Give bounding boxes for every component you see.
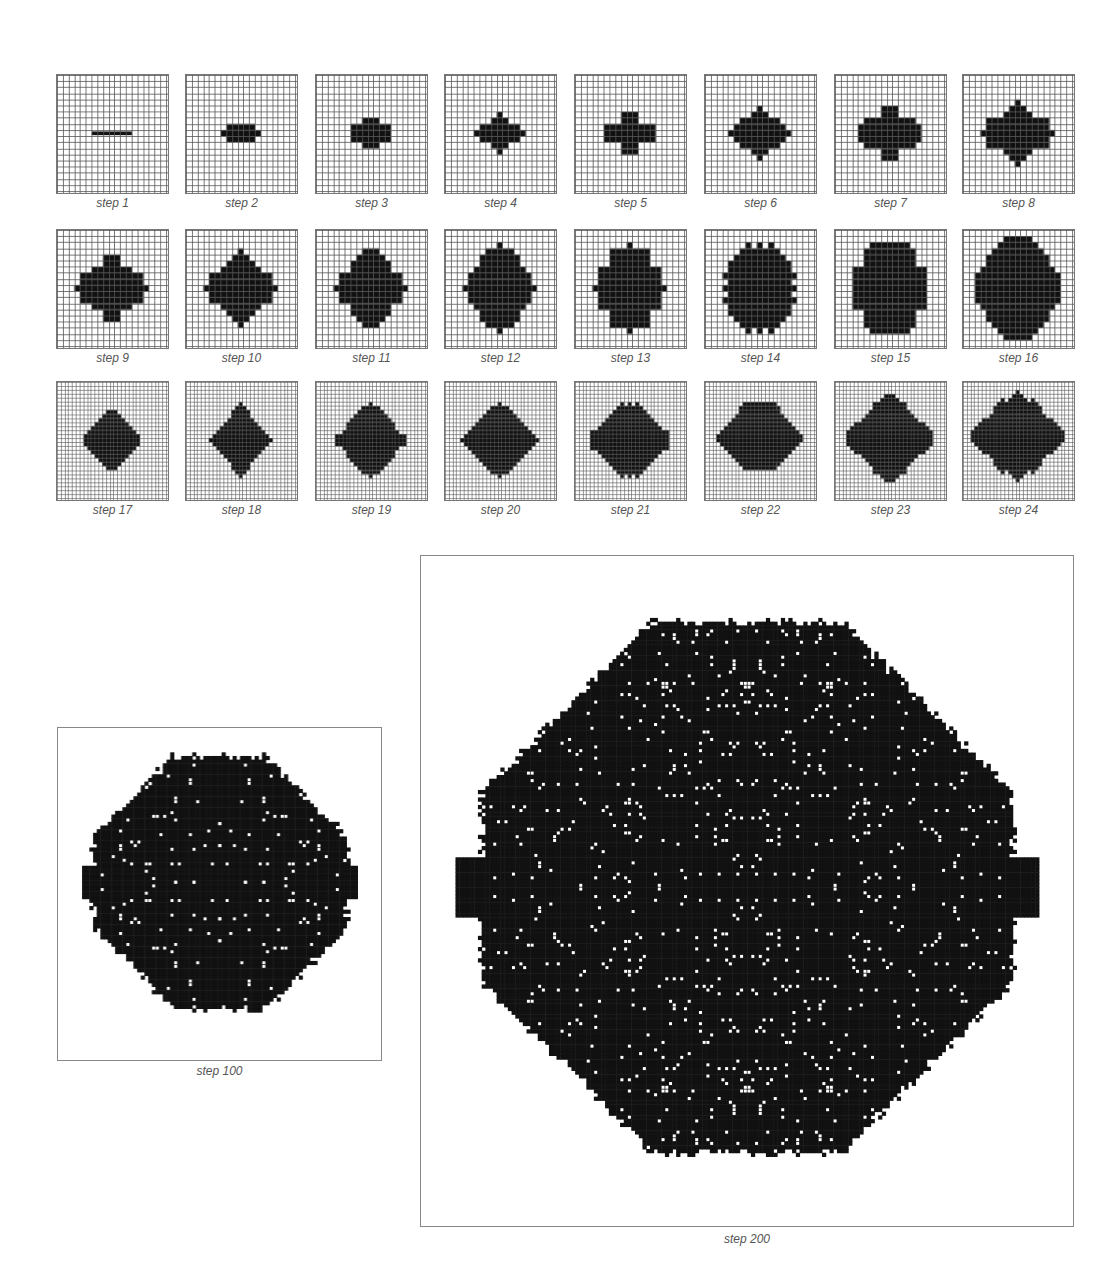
step-11-caption: step 11 <box>315 351 428 365</box>
step-200-pattern <box>448 588 1046 1186</box>
step-12-caption: step 12 <box>444 351 557 365</box>
step-3-grid <box>315 74 428 194</box>
step-1-caption: step 1 <box>56 196 169 210</box>
step-6-grid <box>704 74 817 194</box>
step-6-caption: step 6 <box>704 196 817 210</box>
step-15-caption: step 15 <box>834 351 947 365</box>
step-23-caption: step 23 <box>834 503 947 517</box>
step-19-grid <box>315 381 428 501</box>
step-14-grid <box>704 229 817 349</box>
step-9-caption: step 9 <box>56 351 169 365</box>
step-22-caption: step 22 <box>704 503 817 517</box>
step-100-caption: step 100 <box>57 1064 382 1078</box>
step-21-grid <box>574 381 687 501</box>
step-19-caption: step 19 <box>315 503 428 517</box>
step-9-grid <box>56 229 169 349</box>
step-16-grid <box>962 229 1075 349</box>
step-4-caption: step 4 <box>444 196 557 210</box>
step-24-caption: step 24 <box>962 503 1075 517</box>
step-15-grid <box>834 229 947 349</box>
step-23-grid <box>834 381 947 501</box>
step-17-grid <box>56 381 169 501</box>
step-22-grid <box>704 381 817 501</box>
step-1-grid <box>56 74 169 194</box>
step-11-grid <box>315 229 428 349</box>
step-200-caption: step 200 <box>420 1232 1074 1246</box>
step-18-caption: step 18 <box>185 503 298 517</box>
step-13-caption: step 13 <box>574 351 687 365</box>
step-20-grid <box>444 381 557 501</box>
step-8-caption: step 8 <box>962 196 1075 210</box>
step-100-frame <box>57 727 382 1061</box>
step-14-caption: step 14 <box>704 351 817 365</box>
step-10-caption: step 10 <box>185 351 298 365</box>
step-8-grid <box>962 74 1075 194</box>
step-21-caption: step 21 <box>574 503 687 517</box>
step-5-grid <box>574 74 687 194</box>
step-3-caption: step 3 <box>315 196 428 210</box>
step-16-caption: step 16 <box>962 351 1075 365</box>
step-7-grid <box>834 74 947 194</box>
step-12-grid <box>444 229 557 349</box>
step-17-caption: step 17 <box>56 503 169 517</box>
step-4-grid <box>444 74 557 194</box>
step-13-grid <box>574 229 687 349</box>
step-100-pattern <box>71 734 367 1030</box>
step-7-caption: step 7 <box>834 196 947 210</box>
step-2-grid <box>185 74 298 194</box>
step-18-grid <box>185 381 298 501</box>
step-20-caption: step 20 <box>444 503 557 517</box>
step-5-caption: step 5 <box>574 196 687 210</box>
step-10-grid <box>185 229 298 349</box>
step-200-frame <box>420 555 1074 1227</box>
step-24-grid <box>962 381 1075 501</box>
step-2-caption: step 2 <box>185 196 298 210</box>
